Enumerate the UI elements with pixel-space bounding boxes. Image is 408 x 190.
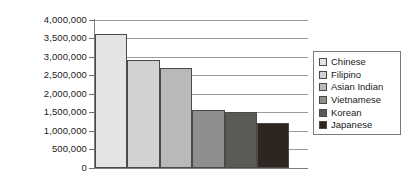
x-axis-line	[94, 168, 308, 169]
bar-asian-indian	[160, 68, 192, 168]
legend-item-label: Vietnamese	[331, 95, 381, 105]
legend-item-group: ChineseFilipinoAsian IndianVietnameseKor…	[319, 56, 400, 132]
legend-swatch-icon	[319, 83, 327, 91]
y-axis-tick-label: 3,500,000	[44, 33, 87, 42]
legend-swatch-icon	[319, 58, 327, 66]
legend-item-label: Japanese	[331, 120, 372, 130]
bar-korean	[225, 112, 257, 168]
y-axis-tick-label: 4,000,000	[44, 15, 87, 24]
legend-item: Filipino	[319, 69, 400, 82]
legend-item-label: Filipino	[331, 70, 361, 80]
y-axis-tick-label: 3,000,000	[44, 52, 87, 61]
legend-item: Chinese	[319, 56, 400, 69]
legend-swatch-icon	[319, 109, 327, 117]
bar-chart: 4,000,0003,500,0003,000,0002,500,0002,00…	[0, 0, 408, 190]
y-axis-tick-label: 1,500,000	[44, 107, 87, 116]
bar-filipino	[127, 60, 159, 168]
legend-swatch-icon	[319, 71, 327, 79]
y-axis-tick-label: 2,000,000	[44, 89, 87, 98]
gridline	[95, 20, 308, 21]
legend-item: Asian Indian	[319, 81, 400, 94]
legend-item: Japanese	[319, 119, 400, 132]
legend-swatch-icon	[319, 96, 327, 104]
bar-vietnamese	[192, 110, 224, 168]
y-axis-tick-label: 1,000,000	[44, 126, 87, 135]
legend-swatch-icon	[319, 121, 327, 129]
legend-item-label: Asian Indian	[331, 82, 383, 92]
legend-item: Vietnamese	[319, 94, 400, 107]
legend-item: Korean	[319, 106, 400, 119]
y-axis-tick-label: 500,000	[52, 144, 87, 153]
y-axis-tick-label: 0	[82, 163, 87, 172]
bar-japanese	[257, 123, 289, 168]
bar-chinese	[95, 34, 127, 168]
chart-legend: ChineseFilipinoAsian IndianVietnameseKor…	[313, 51, 401, 135]
legend-item-label: Korean	[331, 108, 362, 118]
legend-item-label: Chinese	[331, 57, 366, 67]
y-axis-tick-label: 2,500,000	[44, 70, 87, 79]
